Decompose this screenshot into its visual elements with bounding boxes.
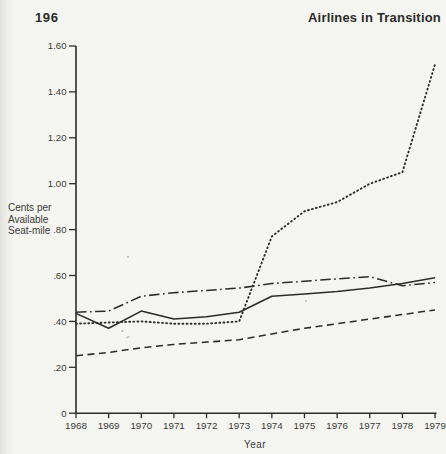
y-axis-title-line1: Cents per <box>8 202 51 214</box>
x-tick-label: 1971 <box>163 420 185 431</box>
y-axis-title-line2: Available <box>8 214 51 226</box>
series-dotted-line <box>76 64 435 323</box>
x-tick-label: 1978 <box>392 420 414 431</box>
y-tick-label: 1.00 <box>48 178 67 189</box>
x-tick-label: 1972 <box>196 420 218 431</box>
x-tick-label: 1968 <box>65 420 87 431</box>
x-tick-label: 1969 <box>98 420 120 431</box>
x-axis-title: Year <box>244 439 266 450</box>
y-tick-label: .20 <box>53 362 66 373</box>
line-chart: 0.20.40.60.801.001.201.401.6019681969197… <box>0 0 446 454</box>
x-tick-label: 1970 <box>130 420 152 431</box>
y-tick-label: .40 <box>53 316 66 327</box>
y-tick-label: 0 <box>61 408 66 419</box>
x-tick-label: 1973 <box>228 420 250 431</box>
y-tick-label: .60 <box>53 270 66 281</box>
x-tick-label: 1975 <box>294 420 316 431</box>
x-tick-label: 1976 <box>326 420 348 431</box>
x-tick-label: 1974 <box>261 420 283 431</box>
series-solid-line <box>76 278 435 329</box>
y-tick-label: .80 <box>53 224 66 235</box>
y-tick-label: 1.40 <box>48 86 67 97</box>
y-tick-label: 1.60 <box>48 40 67 51</box>
series-dash-dot-line <box>76 277 435 313</box>
x-tick-label: 1977 <box>359 420 381 431</box>
x-tick-label: 1979 <box>424 420 446 431</box>
y-axis-title: Cents per Available Seat-mile <box>8 202 51 237</box>
y-tick-label: 1.20 <box>48 132 67 143</box>
book-page: 196 Airlines in Transition 0.20.40.60.80… <box>0 0 446 454</box>
y-axis-title-line3: Seat-mile <box>8 225 51 237</box>
